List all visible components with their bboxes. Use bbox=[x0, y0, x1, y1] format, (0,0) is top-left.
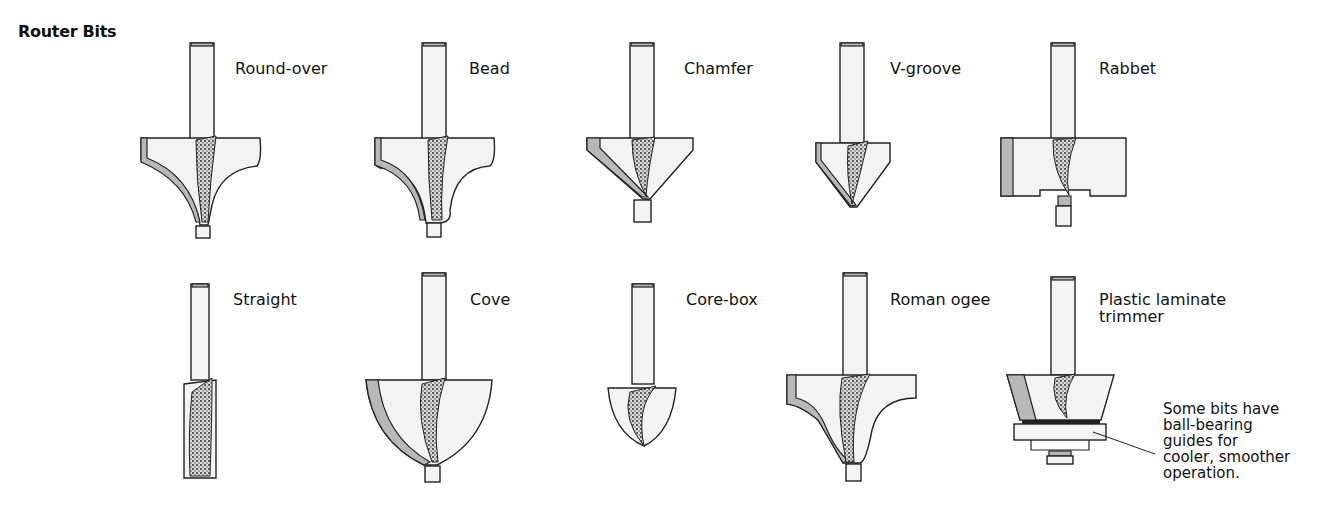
callout-line: Some bits have bbox=[1163, 401, 1290, 417]
label-cove: Cove bbox=[470, 291, 510, 308]
label-bead: Bead bbox=[469, 60, 510, 77]
label-chamfer: Chamfer bbox=[684, 60, 753, 77]
label-core-box: Core-box bbox=[686, 291, 758, 308]
label-round-over: Round-over bbox=[235, 60, 327, 77]
callout-line: cooler, smoother bbox=[1163, 449, 1290, 465]
chamfer-bit bbox=[587, 43, 693, 222]
core-box-bit bbox=[608, 284, 676, 446]
straight-bit bbox=[184, 284, 216, 478]
label-laminate-line1: Plastic laminate bbox=[1099, 291, 1226, 308]
label-laminate-line2: trimmer bbox=[1099, 308, 1226, 325]
label-straight: Straight bbox=[233, 291, 297, 308]
ball-bearing-callout: Some bits have ball-bearing guides for c… bbox=[1163, 401, 1290, 481]
label-laminate-trimmer: Plastic laminate trimmer bbox=[1099, 291, 1226, 325]
label-v-groove: V-groove bbox=[890, 60, 961, 77]
label-roman-ogee: Roman ogee bbox=[890, 291, 990, 308]
callout-line: operation. bbox=[1163, 465, 1290, 481]
callout-line: guides for bbox=[1163, 433, 1290, 449]
v-groove-bit bbox=[816, 43, 890, 207]
label-rabbet: Rabbet bbox=[1099, 60, 1156, 77]
callout-line: ball-bearing bbox=[1163, 417, 1290, 433]
